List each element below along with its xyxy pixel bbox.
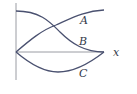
x-axis-label: x — [113, 46, 120, 59]
curve-a-label: A — [79, 14, 88, 27]
wave-diagram: A B C x — [0, 0, 137, 94]
curve-c — [16, 52, 104, 72]
curve-a — [16, 10, 104, 52]
curve-b — [16, 11, 104, 52]
curve-c-label: C — [79, 67, 88, 80]
curve-b-label: B — [78, 35, 87, 48]
